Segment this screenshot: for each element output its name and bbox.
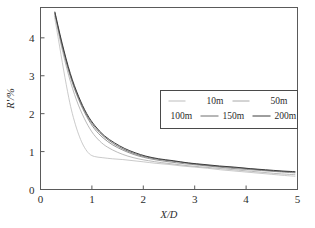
- y-tick-label: 4: [29, 32, 35, 44]
- legend-label-150m: 150m: [223, 111, 245, 121]
- y-tick-label: 2: [29, 108, 35, 120]
- legend-label-100m: 100m: [171, 111, 193, 121]
- y-tick-label: 1: [29, 146, 35, 158]
- legend-label-10m: 10m: [207, 96, 225, 106]
- chart-figure: 01234501234 10m50m100m150m200m X/DR'/%: [0, 0, 315, 228]
- x-tick-label: 1: [89, 193, 95, 205]
- y-tick-label: 0: [29, 184, 35, 196]
- legend-label-200m: 200m: [275, 111, 297, 121]
- chart-legend: 10m50m100m150m200m: [161, 91, 298, 129]
- legend-label-50m: 50m: [271, 96, 289, 106]
- x-tick-label: 0: [38, 193, 44, 205]
- line-chart-svg: 01234501234 10m50m100m150m200m X/DR'/%: [0, 0, 315, 228]
- x-tick-label: 5: [295, 193, 301, 205]
- x-tick-label: 2: [141, 193, 147, 205]
- x-tick-label: 3: [192, 193, 198, 205]
- x-axis-label: X/D: [160, 209, 178, 220]
- y-axis-label: R'/%: [5, 88, 16, 110]
- x-tick-label: 4: [243, 193, 249, 205]
- y-tick-label: 3: [29, 70, 35, 82]
